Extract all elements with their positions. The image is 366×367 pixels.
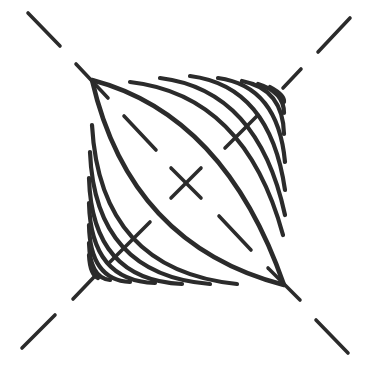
axis-dash <box>124 116 156 150</box>
axis-dash <box>318 18 350 52</box>
hatch-arc <box>160 78 285 215</box>
axis-dash <box>28 13 60 46</box>
axis-dash <box>283 69 301 88</box>
upper-right-hatch-arcs <box>130 76 285 235</box>
axis-dash <box>22 315 55 348</box>
axis-dash <box>316 320 348 353</box>
lens-hatch-diagram <box>0 0 366 367</box>
axis-dash <box>219 216 251 250</box>
axis-dash <box>73 276 95 299</box>
diagram-canvas <box>0 0 366 367</box>
center-cross-mark <box>171 168 201 198</box>
